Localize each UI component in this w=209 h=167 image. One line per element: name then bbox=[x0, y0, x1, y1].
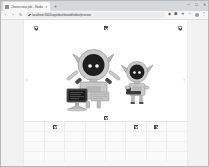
new-tab-button[interactable]: + bbox=[52, 3, 59, 10]
carousel-prev-arrow[interactable]: ‹ bbox=[26, 76, 28, 81]
grid-cell[interactable] bbox=[24, 122, 44, 132]
grid-cell[interactable] bbox=[85, 152, 105, 162]
grid-cell[interactable] bbox=[44, 152, 64, 162]
back-button[interactable]: ‹ bbox=[3, 13, 8, 18]
data-grid-body bbox=[24, 122, 187, 162]
table-row bbox=[24, 132, 187, 142]
menu-kebab-icon[interactable]: ⋮ bbox=[202, 13, 207, 18]
grid-cell[interactable] bbox=[106, 152, 126, 162]
tab-close-icon[interactable]: ✕ bbox=[45, 5, 48, 9]
grid-cell[interactable] bbox=[24, 142, 44, 152]
page-viewport: ‹ › bbox=[1, 20, 208, 166]
tab-strip: Chores new job - Studio ✕ + ─ □ ✕ bbox=[1, 1, 208, 11]
grid-cell[interactable] bbox=[146, 142, 166, 152]
broken-image-placeholder-left[interactable] bbox=[34, 26, 38, 30]
broken-image-placeholder-right[interactable] bbox=[178, 26, 182, 30]
grid-cell[interactable] bbox=[85, 132, 105, 142]
broken-image-placeholder[interactable] bbox=[53, 125, 57, 129]
large-robot-figure bbox=[66, 49, 120, 111]
browser-window: Chores new job - Studio ✕ + ─ □ ✕ ‹ › ↻ … bbox=[0, 0, 209, 167]
grid-cell[interactable] bbox=[167, 142, 187, 152]
grid-cell[interactable] bbox=[146, 152, 166, 162]
extension-icon-1[interactable]: ◆ bbox=[167, 13, 172, 18]
grid-cell[interactable] bbox=[106, 132, 126, 142]
grid-cell[interactable] bbox=[106, 142, 126, 152]
small-robot-held-object bbox=[126, 91, 141, 95]
grid-cell[interactable] bbox=[167, 132, 187, 142]
table-row bbox=[24, 122, 187, 132]
reload-button[interactable]: ↻ bbox=[18, 13, 23, 18]
minimize-button[interactable]: ─ bbox=[186, 2, 191, 7]
grid-cell[interactable] bbox=[126, 132, 146, 142]
desktop-computer bbox=[67, 89, 87, 111]
page-content: ‹ › bbox=[24, 20, 187, 166]
forward-button[interactable]: › bbox=[11, 13, 16, 18]
extension-icon-3[interactable]: ★ bbox=[181, 13, 186, 18]
grid-cell[interactable] bbox=[44, 132, 64, 142]
grid-cell[interactable] bbox=[126, 122, 146, 132]
broken-image-placeholder[interactable] bbox=[134, 125, 138, 129]
window-controls: ─ □ ✕ bbox=[186, 2, 207, 7]
extension-icon-2[interactable]: ⬢ bbox=[174, 13, 179, 18]
grid-cell[interactable] bbox=[44, 142, 64, 152]
page-toolbar bbox=[24, 20, 187, 36]
hero-illustration-area: ‹ › bbox=[24, 36, 187, 121]
data-grid bbox=[24, 122, 187, 162]
grid-cell[interactable] bbox=[65, 132, 85, 142]
grid-cell[interactable] bbox=[85, 142, 105, 152]
table-row bbox=[24, 152, 187, 162]
grid-cell[interactable] bbox=[65, 122, 85, 132]
grid-cell[interactable] bbox=[65, 142, 85, 152]
small-robot-figure bbox=[121, 61, 153, 104]
url-text: localhost:3000/app/dashboard/editor/prev… bbox=[32, 13, 91, 17]
grid-cell[interactable] bbox=[44, 122, 64, 132]
grid-cell[interactable] bbox=[24, 132, 44, 142]
carousel-next-arrow[interactable]: › bbox=[183, 76, 185, 81]
grid-cell[interactable] bbox=[106, 122, 126, 132]
table-row bbox=[24, 142, 187, 152]
navigation-toolbar: ‹ › ↻ localhost:3000/app/dashboard/edito… bbox=[1, 11, 208, 20]
broken-image-placeholder-caption[interactable] bbox=[104, 116, 108, 120]
broken-image-placeholder-center[interactable] bbox=[104, 26, 108, 30]
grid-cell[interactable] bbox=[126, 152, 146, 162]
grid-cell[interactable] bbox=[146, 122, 166, 132]
tab-title: Chores new job - Studio bbox=[11, 5, 44, 9]
page-right-gutter bbox=[187, 20, 208, 166]
page-left-gutter bbox=[1, 20, 24, 166]
grid-cell[interactable] bbox=[85, 122, 105, 132]
grid-cell[interactable] bbox=[126, 142, 146, 152]
grid-cell[interactable] bbox=[65, 152, 85, 162]
close-button[interactable]: ✕ bbox=[202, 2, 207, 7]
avatar[interactable] bbox=[195, 13, 199, 17]
bookmark-star-icon[interactable]: ☆ bbox=[188, 13, 193, 18]
grid-cell[interactable] bbox=[24, 152, 44, 162]
browser-tab[interactable]: Chores new job - Studio ✕ bbox=[3, 2, 50, 11]
address-bar[interactable]: localhost:3000/app/dashboard/editor/prev… bbox=[26, 12, 165, 18]
robot-illustration bbox=[47, 43, 165, 115]
lock-icon bbox=[28, 14, 31, 17]
grid-cell[interactable] bbox=[167, 152, 187, 162]
grid-cell[interactable] bbox=[146, 132, 166, 142]
page-favicon-icon bbox=[5, 5, 9, 9]
data-grid-section bbox=[24, 121, 187, 166]
broken-image-placeholder[interactable] bbox=[154, 125, 158, 129]
toolbar-actions: ◆ ⬢ ★ ☆ ⋮ bbox=[167, 13, 206, 18]
maximize-button[interactable]: □ bbox=[194, 2, 199, 7]
grid-cell[interactable] bbox=[167, 122, 187, 132]
